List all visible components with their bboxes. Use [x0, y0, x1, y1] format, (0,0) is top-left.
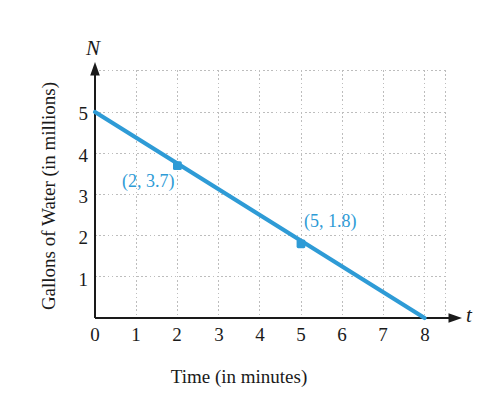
- y-axis: [90, 62, 100, 318]
- y-tick-5: 5: [68, 104, 88, 123]
- x-tick-8: 8: [413, 325, 437, 344]
- x-tick-2: 2: [165, 325, 189, 344]
- x-axis-title: Time (in minutes): [0, 366, 478, 388]
- y-tick-4: 4: [68, 146, 88, 165]
- x-tick-4: 4: [248, 325, 272, 344]
- plot-area: 0 1 2 3 4 5 6 7 8 1 2 3 4 5 N t (2, 3.7)…: [0, 0, 478, 405]
- x-tick-3: 3: [207, 325, 231, 344]
- x-axis: [95, 313, 462, 323]
- data-point-marker-2: [297, 239, 306, 248]
- x-tick-6: 6: [330, 325, 354, 344]
- annotation-point-1: (2, 3.7): [122, 172, 175, 190]
- gridlines: [95, 70, 445, 318]
- y-tick-2: 2: [68, 228, 88, 247]
- data-point-marker-1: [173, 161, 182, 170]
- y-tick-1: 1: [68, 270, 88, 289]
- x-tick-1: 1: [124, 325, 148, 344]
- annotation-point-2: (5, 1.8): [304, 212, 357, 230]
- chart-figure: 0 1 2 3 4 5 6 7 8 1 2 3 4 5 N t (2, 3.7)…: [0, 0, 478, 405]
- x-tick-7: 7: [371, 325, 395, 344]
- x-tick-0: 0: [83, 325, 107, 344]
- y-axis-variable-label: N: [86, 38, 100, 59]
- y-axis-title: Gallons of Water (in millions): [38, 51, 60, 341]
- y-tick-3: 3: [68, 187, 88, 206]
- x-axis-variable-label: t: [466, 305, 472, 326]
- x-tick-5: 5: [289, 325, 313, 344]
